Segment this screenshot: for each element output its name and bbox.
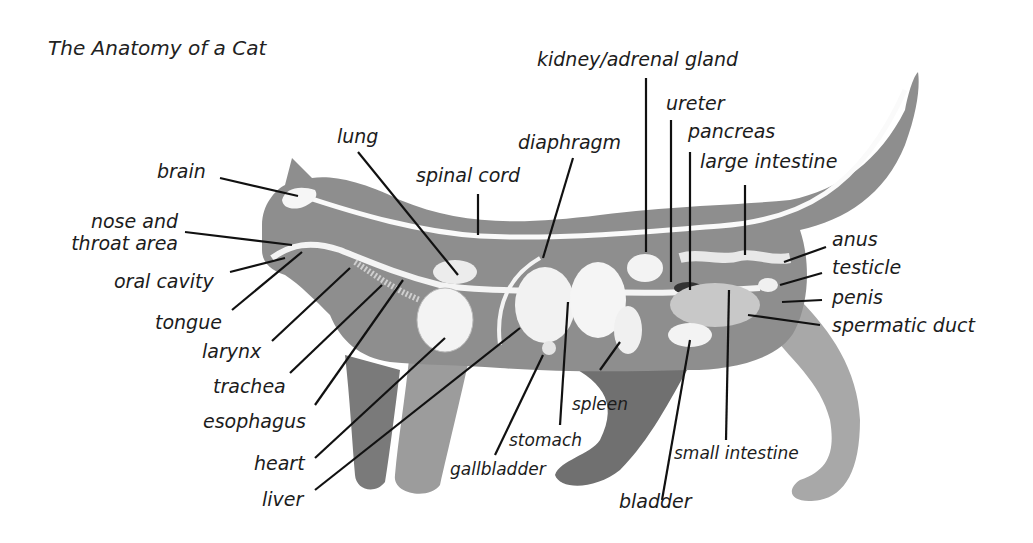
spleen-organ bbox=[614, 306, 642, 354]
label-trachea: trachea bbox=[213, 375, 286, 397]
label-liver: liver bbox=[262, 488, 303, 510]
kidney-organ bbox=[627, 254, 663, 282]
testicle-organ bbox=[758, 278, 778, 292]
large-intestine-organ bbox=[680, 255, 790, 259]
label-kidney-adrenal-gland: kidney/adrenal gland bbox=[537, 48, 738, 70]
label-lung: lung bbox=[337, 125, 378, 147]
label-nose-and: nose and bbox=[60, 210, 178, 232]
gallbladder-organ bbox=[542, 341, 556, 355]
label-brain: brain bbox=[157, 160, 206, 182]
label-oral-cavity: oral cavity bbox=[114, 270, 214, 292]
label-larynx: larynx bbox=[202, 340, 261, 362]
heart-organ bbox=[417, 288, 473, 352]
label-testicle: testicle bbox=[832, 256, 901, 278]
cat-anatomy-diagram: The Anatomy of a Cat brain nose and thro… bbox=[0, 0, 1033, 543]
label-throat-area: throat area bbox=[60, 232, 178, 254]
label-spleen: spleen bbox=[572, 393, 628, 415]
label-tongue: tongue bbox=[155, 311, 222, 333]
label-esophagus: esophagus bbox=[203, 410, 306, 432]
label-large-intestine: large intestine bbox=[700, 150, 837, 172]
label-heart: heart bbox=[254, 452, 305, 474]
diagram-title: The Anatomy of a Cat bbox=[48, 36, 266, 60]
label-small-intestine: small intestine bbox=[674, 442, 799, 464]
label-gallbladder: gallbladder bbox=[450, 458, 546, 480]
label-pancreas: pancreas bbox=[688, 120, 775, 142]
label-penis: penis bbox=[832, 286, 883, 308]
label-diaphragm: diaphragm bbox=[518, 131, 621, 153]
label-ureter: ureter bbox=[666, 92, 725, 114]
label-stomach: stomach bbox=[509, 429, 582, 451]
label-anus: anus bbox=[832, 228, 878, 250]
small-intestine-organ bbox=[670, 283, 760, 327]
label-spermatic-duct: spermatic duct bbox=[832, 314, 975, 336]
label-spinal-cord: spinal cord bbox=[416, 164, 520, 186]
label-bladder: bladder bbox=[619, 490, 692, 512]
